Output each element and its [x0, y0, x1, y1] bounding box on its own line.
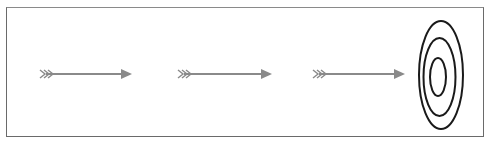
target-ring [430, 58, 446, 96]
arrow-icon [313, 69, 405, 79]
arrow-icon [40, 69, 132, 79]
target-icon [419, 21, 463, 129]
diagram-canvas [0, 0, 490, 147]
arrows-group [40, 69, 405, 79]
arrow-icon [178, 69, 272, 79]
target-ring [424, 38, 456, 116]
